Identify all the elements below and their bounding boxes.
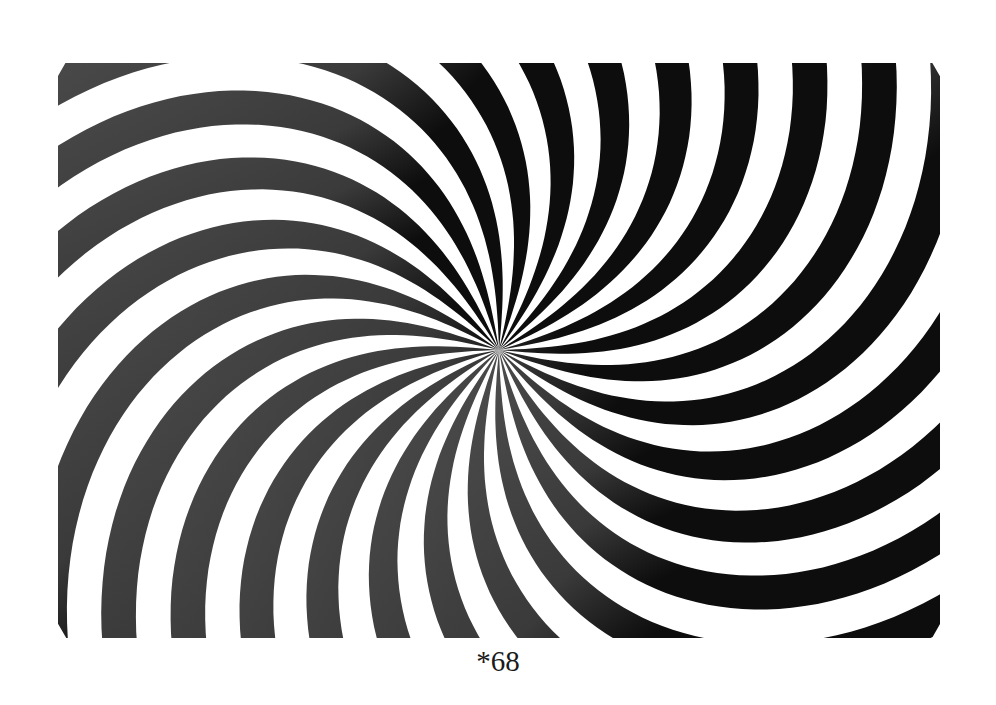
spiral-graphic [58, 63, 940, 638]
document-page: *68 [0, 0, 996, 705]
spiral-illusion-figure [58, 63, 940, 638]
figure-caption: *68 [0, 644, 996, 678]
